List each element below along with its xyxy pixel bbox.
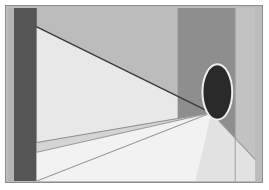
dark-portal-ellipse: [202, 64, 232, 119]
left-edge-highlight: [8, 8, 14, 181]
left-dark-band: [14, 8, 37, 181]
perspective-scene: [6, 6, 262, 182]
illustration-frame: [5, 5, 263, 183]
